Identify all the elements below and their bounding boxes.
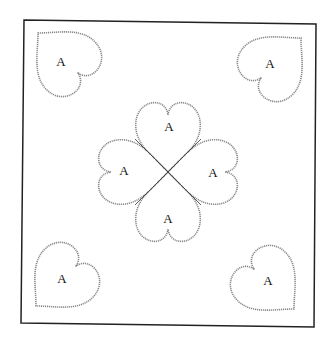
piece-label: A: [163, 211, 173, 226]
corner-heart-bottom-right: A: [222, 237, 318, 333]
piece-label: A: [56, 54, 66, 69]
piece-label: A: [57, 271, 67, 286]
quilt-block-diagram: A A A A A A A A: [0, 0, 330, 339]
piece-label: A: [263, 273, 273, 288]
corner-heart-top-left: A: [14, 9, 110, 105]
corner-heart-bottom-left: A: [12, 234, 108, 330]
piece-label: A: [119, 163, 129, 178]
corner-heart-top-right: A: [229, 14, 325, 110]
piece-label: A: [265, 56, 275, 71]
piece-label: A: [208, 165, 218, 180]
center-clover: A A A A: [99, 103, 238, 242]
piece-label: A: [164, 119, 174, 134]
